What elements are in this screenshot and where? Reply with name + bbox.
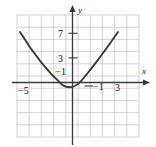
y-tick-label-3: 3 — [58, 53, 63, 64]
x-tick-label-neg1: −1 — [93, 81, 104, 92]
x-axis-label: x — [141, 66, 146, 76]
y-axis-label: y — [77, 5, 82, 15]
y-tick-label-7: 7 — [58, 28, 63, 39]
coordinate-plane-svg: 7 3 −1 −5 −1 3 x y — [0, 0, 156, 147]
y-tick-label-neg1: −1 — [55, 66, 66, 77]
graph-figure: 7 3 −1 −5 −1 3 x y — [0, 0, 156, 147]
x-tick-label-neg5: −5 — [18, 85, 29, 96]
x-tick-label-3: 3 — [115, 82, 120, 93]
